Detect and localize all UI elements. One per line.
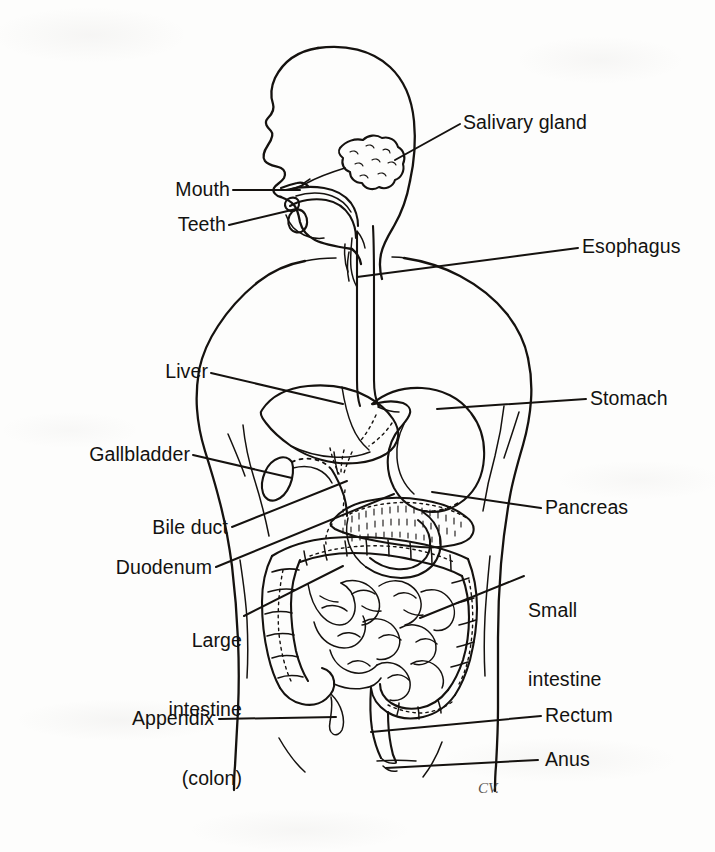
- haustra-tr-5: [388, 540, 389, 556]
- right-inner-hip: [484, 556, 490, 676]
- liver-hidden-border-1: [369, 423, 392, 446]
- artist-signature: CV.: [478, 780, 499, 797]
- salivary-gland-texture-4: [355, 163, 363, 166]
- gallbladder-bileduct-group: [262, 448, 352, 516]
- label-salivary-gland: Salivary gland: [463, 111, 587, 134]
- haustra-desc-5: [451, 662, 468, 667]
- salivary-gland-texture-8: [378, 173, 386, 176]
- salivary-gland-texture-1: [350, 151, 358, 154]
- pharynx-fold-3: [357, 231, 365, 248]
- sigmoid-colon-inner: [380, 684, 448, 709]
- gallbladder-outline: [262, 457, 293, 500]
- appendix-outline: [330, 694, 344, 735]
- right-groin-crease: [423, 742, 442, 777]
- leader-salivary-gland: [395, 124, 460, 160]
- skull-crown-outline: [318, 47, 415, 181]
- label-large-intestine-line1: Large: [84, 629, 242, 652]
- stomach-lesser-curvature: [397, 424, 414, 494]
- left-flank-line: [228, 434, 245, 476]
- haustra-asc-5: [272, 656, 298, 658]
- label-bile-duct: Bile duct: [84, 516, 228, 539]
- salivary-gland-texture-7: [360, 175, 368, 178]
- si-ileum-terminal: [334, 678, 381, 689]
- label-teeth: Teeth: [80, 213, 226, 236]
- rectum-outline-right: [388, 712, 396, 762]
- label-mouth: Mouth: [80, 178, 230, 201]
- torso-outline-group: [197, 257, 532, 791]
- leader-large-intestine: [244, 566, 343, 616]
- right-clavicle-line: [392, 257, 404, 258]
- right-flank-line: [504, 412, 519, 458]
- right-abdominal-wall: [483, 406, 504, 511]
- rectum-outline-left: [370, 688, 381, 758]
- left-abdominal-wall: [243, 425, 269, 536]
- trachea-hint: [348, 252, 350, 281]
- si-coil-5: [314, 616, 365, 648]
- liver-hidden-border-2: [361, 415, 376, 440]
- haustra-asc-3: [265, 612, 292, 614]
- salivary-gland-texture-3: [383, 149, 390, 153]
- haustra-tr-6: [410, 543, 411, 559]
- label-pancreas: Pancreas: [545, 496, 628, 519]
- small-intestine-group: [308, 581, 454, 701]
- left-groin-crease: [279, 738, 305, 772]
- label-appendix: Appendix: [84, 707, 214, 730]
- salivary-duct: [291, 168, 345, 189]
- si-coil-11: [322, 606, 347, 611]
- haustra-desc-3: [459, 620, 476, 625]
- label-gallbladder: Gallbladder: [48, 443, 190, 466]
- taenia-ascending: [278, 570, 291, 681]
- large-intestine-group: [262, 537, 477, 719]
- label-small-intestine-line2: intestine: [528, 668, 602, 691]
- label-large-intestine-line3: (colon): [84, 767, 242, 790]
- haustra-tr-2: [324, 545, 327, 560]
- digestive-system-figure: Salivary gland Mouth Teeth Esophagus Liv…: [0, 0, 715, 852]
- sigmoid-haustra-3: [397, 703, 399, 715]
- si-coil-7: [400, 625, 436, 665]
- right-shoulder-outline: [404, 258, 528, 358]
- left-clavicle-line: [305, 258, 336, 261]
- label-liver: Liver: [80, 360, 208, 383]
- esophagus-right-wall: [373, 226, 379, 407]
- si-coil-14: [338, 633, 360, 637]
- leader-rectum: [371, 716, 541, 732]
- bile-duct-hidden-branch-2: [341, 450, 344, 474]
- leader-small-intestine: [420, 576, 524, 618]
- head-outline-group: [264, 47, 415, 279]
- haustra-tr-7: [431, 548, 432, 564]
- label-anus: Anus: [545, 748, 590, 771]
- si-coil-12: [352, 590, 375, 594]
- haustra-asc-4: [267, 634, 294, 636]
- label-small-intestine-line1: Small: [528, 599, 602, 622]
- label-rectum: Rectum: [545, 704, 613, 727]
- si-coil-1: [308, 583, 355, 625]
- leader-liver: [211, 373, 343, 404]
- salivary-gland-group: [291, 136, 404, 190]
- leader-esophagus: [357, 248, 578, 277]
- liver-outline: [261, 385, 399, 463]
- haustra-asc-6: [278, 676, 303, 678]
- salivary-gland-texture-6: [388, 162, 396, 165]
- si-coil-6: [363, 619, 400, 660]
- lower-jaw-inner-line: [286, 215, 324, 238]
- head-profile-outline: [264, 48, 318, 197]
- appendix-group: [330, 694, 344, 735]
- haustra-desc-1: [452, 578, 469, 583]
- esophagus-group: [345, 226, 379, 407]
- label-stomach: Stomach: [590, 387, 668, 410]
- haustra-tr-1: [304, 551, 307, 565]
- si-coil-3: [379, 581, 421, 625]
- si-coil-18: [388, 675, 409, 680]
- si-coil-17: [348, 661, 370, 666]
- ascending-colon-outer: [262, 556, 280, 688]
- sigmoid-colon-outer: [371, 688, 455, 718]
- ascending-colon-inner: [291, 560, 308, 681]
- si-coil-15: [379, 635, 401, 640]
- si-mesentery-1: [320, 596, 338, 602]
- duodenum-descending-part: [347, 518, 366, 567]
- si-coil-13: [394, 593, 416, 598]
- stomach-cardia-fold: [378, 407, 399, 412]
- salivary-gland-texture-5: [372, 159, 380, 162]
- label-duodenum: Duodenum: [72, 556, 212, 579]
- liver-group: [261, 385, 399, 463]
